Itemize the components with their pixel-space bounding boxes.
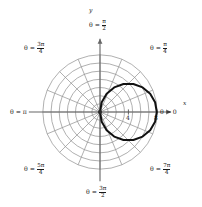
fraction-denominator: 4: [37, 48, 44, 55]
grid-spoke-135deg: [60, 72, 100, 112]
angle-label-theta-pi-4: θ = π4: [150, 42, 167, 54]
fraction-denominator: 2: [102, 25, 106, 32]
angle-label-prefix: θ =: [89, 21, 102, 28]
angle-label-theta-7pi-4: θ = 7π4: [150, 163, 171, 175]
fraction-numerator: 7π: [163, 163, 170, 169]
angle-label-prefix: θ =: [24, 44, 37, 51]
grid-spoke-225deg: [60, 112, 100, 152]
angle-label-prefix: θ =: [86, 188, 99, 195]
grid-spoke-45deg: [100, 72, 140, 112]
angle-label-prefix: θ =: [10, 108, 23, 115]
fraction-denominator: 2: [99, 192, 106, 199]
angle-label-fraction: 7π4: [163, 163, 170, 175]
angle-label-fraction: π2: [102, 19, 106, 31]
fraction-denominator: 4: [37, 169, 44, 176]
x-axis-label: x: [183, 99, 186, 106]
angle-label-prefix: θ =: [160, 108, 173, 115]
angle-label-value: π: [23, 108, 27, 115]
angle-label-theta-0: θ = 0: [160, 109, 177, 115]
fraction-denominator: 4: [163, 169, 170, 176]
angle-label-fraction: π4: [163, 42, 167, 54]
y-axis-arrowhead: [98, 39, 103, 44]
grid-spoke-315deg: [100, 112, 140, 152]
radial-tick-label-8: 8: [154, 114, 158, 121]
angle-label-fraction: 3π2: [99, 186, 106, 198]
fraction-numerator: 3π: [99, 186, 106, 192]
fraction-numerator: π: [102, 19, 106, 25]
origin-point: [98, 110, 102, 114]
polar-plot-figure: θ = 0θ = π4θ = π2θ = 3π4θ = πθ = 5π4θ = …: [0, 0, 202, 207]
angle-label-theta-pi-2: θ = π2: [89, 19, 106, 31]
angle-label-prefix: θ =: [150, 165, 163, 172]
fraction-numerator: 5π: [37, 163, 44, 169]
angle-label-theta-3pi-4: θ = 3π4: [24, 42, 45, 54]
y-axis-label: y: [89, 6, 92, 13]
fraction-numerator: π: [163, 42, 167, 48]
angle-label-prefix: θ =: [24, 165, 37, 172]
angle-label-fraction: 5π4: [37, 163, 44, 175]
angle-label-prefix: θ =: [150, 44, 163, 51]
angle-label-theta-5pi-4: θ = 5π4: [24, 163, 45, 175]
angle-label-value: 0: [173, 108, 177, 115]
fraction-numerator: 3π: [37, 42, 44, 48]
angle-label-theta-pi: θ = π: [10, 109, 27, 115]
angle-label-fraction: 3π4: [37, 42, 44, 54]
angle-label-theta-3pi-2: θ = 3π2: [86, 186, 107, 198]
fraction-denominator: 4: [163, 48, 167, 55]
radial-tick-label-4: 4: [126, 114, 130, 121]
